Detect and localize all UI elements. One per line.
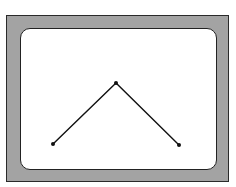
vertex-point-right bbox=[177, 143, 181, 147]
polyline-diagram bbox=[0, 0, 236, 187]
vertex-point-left bbox=[51, 142, 55, 146]
vertex-points bbox=[51, 81, 181, 147]
vertex-point-apex bbox=[114, 81, 118, 85]
connecting-line bbox=[53, 83, 179, 145]
